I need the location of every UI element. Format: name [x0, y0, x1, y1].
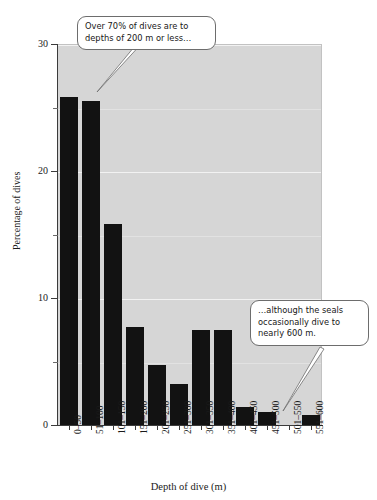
x-tick-label: 101–150 [117, 401, 127, 434]
x-tick [179, 426, 180, 430]
callout-lower-right-line2: occasionally dive to [258, 317, 361, 329]
x-tick-label: 351–400 [227, 401, 237, 434]
x-tick-label: 401–450 [249, 401, 259, 434]
callout-lower-right-pointer [280, 345, 325, 415]
x-tick [311, 426, 312, 430]
callout-lower-right-line1: …although the seals [258, 305, 361, 317]
figure-container: 0102030 0–5051–100101–150151–200201–2502… [0, 0, 377, 500]
x-tick [289, 426, 290, 430]
callout-upper-left-line2: depths of 200 m or less… [85, 33, 208, 45]
y-tick [51, 44, 58, 45]
bar [82, 101, 100, 425]
y-tick [51, 298, 58, 299]
callout-lower-right: …although the seals occasionally dive to… [250, 300, 369, 346]
bar [60, 97, 78, 425]
y-tick [51, 425, 58, 426]
x-tick-label: 151–200 [139, 401, 149, 434]
x-tick [245, 426, 246, 430]
y-tick [51, 171, 58, 172]
y-tick-label: 0 [43, 420, 48, 430]
x-tick [113, 426, 114, 430]
callout-upper-left-line1: Over 70% of dives are to [85, 21, 208, 33]
x-tick-label: 201–250 [161, 401, 171, 434]
callout-lower-right-line3: nearly 600 m. [258, 328, 361, 340]
x-tick [201, 426, 202, 430]
y-tick-minor [53, 108, 58, 109]
x-axis-title: Depth of dive (m) [0, 481, 377, 492]
x-tick [157, 426, 158, 430]
callout-upper-left: Over 70% of dives are to depths of 200 m… [77, 16, 216, 50]
y-tick-minor [53, 235, 58, 236]
bar [104, 224, 122, 425]
y-axis-title: Percentage of dives [12, 172, 22, 250]
x-tick-label: 251–300 [183, 401, 193, 434]
x-tick [91, 426, 92, 430]
x-tick-label: 0–50 [73, 415, 83, 434]
y-tick-label: 10 [38, 293, 48, 303]
y-tick-minor [53, 362, 58, 363]
x-tick-label: 51–100 [95, 406, 105, 435]
x-tick [267, 426, 268, 430]
x-tick [69, 426, 70, 430]
y-tick-label: 20 [38, 166, 48, 176]
x-tick-label: 301–350 [205, 401, 215, 434]
y-tick-label: 30 [38, 39, 48, 49]
x-tick [223, 426, 224, 430]
x-tick [135, 426, 136, 430]
